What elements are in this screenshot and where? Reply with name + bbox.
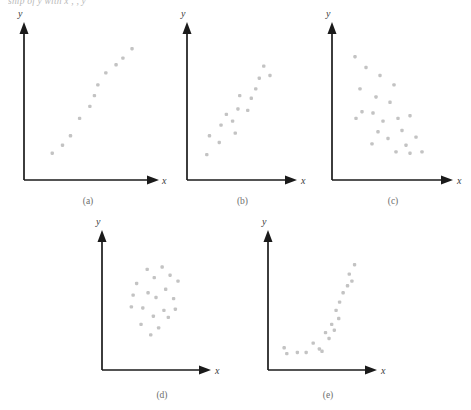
data-point (320, 350, 323, 353)
data-point (219, 123, 222, 126)
data-point (330, 323, 333, 326)
data-point (154, 296, 157, 299)
x-axis-arrow-c (441, 176, 453, 185)
y-axis-label-d: y (95, 218, 101, 227)
data-point (386, 137, 389, 140)
data-point (396, 117, 399, 120)
data-point (164, 288, 167, 291)
data-point (96, 83, 99, 86)
data-point (208, 134, 211, 137)
data-point (282, 346, 285, 349)
data-point (174, 307, 177, 310)
data-point (324, 331, 327, 334)
data-point (254, 87, 257, 90)
data-point (176, 279, 179, 282)
data-point (374, 95, 377, 98)
scatter-plot-d: y x (84, 218, 240, 390)
panel-label-e: (e) (250, 390, 406, 400)
data-point (408, 114, 411, 117)
data-point (388, 101, 391, 104)
axes-a: y x (17, 8, 167, 186)
data-point (130, 47, 133, 50)
data-point (218, 141, 221, 144)
data-point (69, 134, 72, 137)
panel-label-c: (c) (315, 196, 471, 206)
data-point (414, 135, 417, 138)
data-points-c (353, 55, 423, 155)
data-point (404, 144, 407, 147)
data-point (338, 300, 341, 303)
figure-caption-clipped: ship of y with x , , y (8, 0, 468, 8)
data-point (354, 117, 357, 120)
x-axis-arrow-a (147, 176, 159, 185)
data-point (88, 105, 91, 108)
data-point (130, 305, 133, 308)
data-point (61, 144, 64, 147)
data-point (358, 87, 361, 90)
data-point (149, 333, 152, 336)
y-axis-label-b: y (180, 8, 186, 19)
scatter-plot-a: y x (8, 8, 168, 193)
data-point (238, 94, 241, 97)
data-point (135, 282, 138, 285)
data-point (285, 352, 288, 355)
data-point (160, 265, 163, 268)
data-point (360, 110, 363, 113)
x-axis-arrow-b (285, 176, 297, 185)
scatter-panel-c: y x (c) (315, 8, 471, 193)
data-point (262, 64, 265, 67)
data-point (146, 291, 149, 294)
data-point (346, 284, 349, 287)
y-axis-arrow-c (328, 22, 337, 34)
data-point (141, 306, 144, 309)
data-point (152, 315, 155, 318)
data-point (392, 83, 395, 86)
data-point (348, 272, 351, 275)
data-point (337, 317, 340, 320)
data-point (327, 337, 330, 340)
data-point (370, 142, 373, 145)
data-point (93, 94, 96, 97)
data-points-a (51, 47, 134, 155)
y-axis-arrow-b (183, 22, 192, 34)
x-axis-label-e: x (380, 365, 386, 376)
scatterplot-figure: ship of y with x , , y y x (a) (0, 0, 471, 410)
data-point (225, 113, 228, 116)
data-point (104, 71, 107, 74)
data-point (353, 55, 356, 58)
data-point (234, 131, 237, 134)
data-point (364, 66, 367, 69)
data-point (394, 150, 397, 153)
x-axis-label-d: x (214, 365, 220, 376)
data-points-e (282, 263, 356, 355)
data-point (167, 316, 170, 319)
data-point (205, 153, 208, 156)
scatter-plot-e: y x (250, 218, 406, 390)
data-point (78, 117, 81, 120)
x-axis-label-a: x (161, 175, 167, 186)
y-axis-label-e: y (261, 218, 267, 227)
data-point (334, 309, 337, 312)
y-axis-arrow-a (20, 22, 29, 34)
data-point (296, 351, 299, 354)
data-point (371, 111, 374, 114)
data-point (236, 107, 239, 110)
data-point (168, 274, 171, 277)
data-point (376, 130, 379, 133)
data-point (268, 74, 271, 77)
y-axis-arrow-e (264, 230, 273, 242)
data-points-d (130, 265, 180, 336)
data-point (146, 268, 149, 271)
data-point (231, 119, 234, 122)
data-point (162, 309, 165, 312)
data-point (378, 74, 381, 77)
data-point (350, 279, 353, 282)
data-point (333, 329, 336, 332)
panel-label-a: (a) (8, 196, 168, 206)
x-axis-label-b: x (300, 175, 306, 186)
axes-c: y x (325, 8, 462, 186)
y-axis-arrow-d (98, 230, 107, 242)
axes-b: y x (180, 8, 306, 186)
data-point (304, 351, 307, 354)
data-point (131, 293, 134, 296)
